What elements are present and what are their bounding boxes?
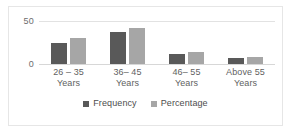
bar-chart-card: 50 0 (8, 6, 283, 126)
legend-item-frequency[interactable]: Frequency (83, 99, 136, 108)
bar-frequency[interactable] (110, 32, 126, 64)
bar-frequency[interactable] (228, 58, 244, 64)
x-axis-label-line2: Years (216, 78, 275, 89)
x-axis-label-line2: Years (98, 78, 157, 89)
bar-percentage[interactable] (129, 28, 145, 64)
x-axis-label: 26 – 35 Years (39, 67, 98, 89)
x-axis-label: 36– 45 Years (98, 67, 157, 89)
x-axis-label-line2: Years (39, 78, 98, 89)
x-axis-label: Above 55 Years (216, 67, 275, 89)
y-tick-label-0: 0 (29, 60, 34, 69)
x-axis-label-line1: 36– 45 (113, 67, 141, 77)
bar-group (39, 21, 98, 65)
bar-percentage[interactable] (247, 57, 263, 64)
bar-groups (39, 21, 275, 65)
x-axis-label: 46– 55 Years (157, 67, 216, 89)
chart-legend: Frequency Percentage (9, 99, 282, 108)
bar-percentage[interactable] (188, 52, 204, 64)
bar-pair (98, 21, 157, 64)
bar-frequency[interactable] (169, 54, 185, 64)
bar-pair (216, 21, 275, 64)
legend-item-percentage[interactable]: Percentage (151, 99, 208, 108)
legend-label: Frequency (93, 99, 136, 108)
bar-pair (39, 21, 98, 64)
y-tick-label-50: 50 (24, 17, 34, 26)
bar-percentage[interactable] (70, 38, 86, 64)
x-axis-category-labels: 26 – 35 Years 36– 45 Years 46– 55 Years … (39, 67, 275, 89)
bar-group (216, 21, 275, 65)
legend-swatch-icon (83, 101, 89, 107)
bar-group (98, 21, 157, 65)
bar-group (157, 21, 216, 65)
legend-label: Percentage (161, 99, 208, 108)
legend-swatch-icon (151, 101, 157, 107)
bar-frequency[interactable] (51, 43, 67, 64)
plot-area: 50 0 (39, 21, 275, 65)
x-axis-label-line1: Above 55 (226, 67, 265, 77)
x-axis-label-line1: 26 – 35 (53, 67, 84, 77)
bar-pair (157, 21, 216, 64)
x-axis-label-line1: 46– 55 (172, 67, 200, 77)
x-axis-label-line2: Years (157, 78, 216, 89)
